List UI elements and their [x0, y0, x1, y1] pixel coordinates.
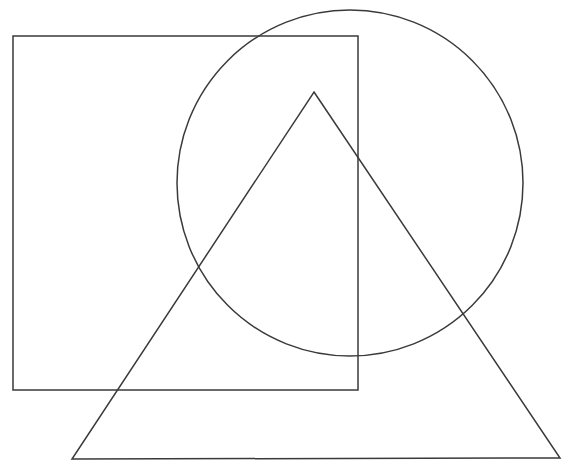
shapes-figure	[0, 0, 575, 470]
drawing-canvas	[0, 0, 575, 470]
canvas-background	[0, 0, 575, 470]
